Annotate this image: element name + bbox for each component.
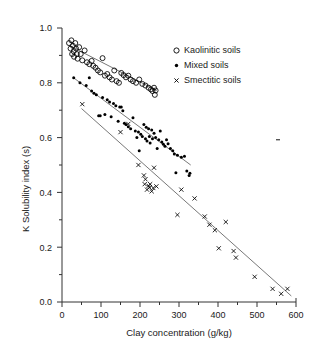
legend-label: Mixed soils	[184, 60, 229, 70]
cross-x-icon	[172, 76, 181, 85]
xtick-label: 500	[247, 310, 267, 320]
xtick-label: 0	[52, 310, 72, 320]
filled-dot-icon	[172, 61, 181, 70]
ytick-label: 1.0	[26, 23, 52, 33]
ytick-label: 0.0	[26, 297, 52, 307]
y-axis-label: K Solubility index (s)	[20, 146, 31, 232]
stray-mark	[276, 139, 280, 140]
ytick-label: 0.8	[26, 78, 52, 88]
ytick-label: 0.2	[26, 243, 52, 253]
xtick-label: 400	[208, 310, 228, 320]
ytick-label: 0.6	[26, 133, 52, 143]
xtick-label: 100	[91, 310, 111, 320]
xtick-label: 300	[169, 310, 189, 320]
legend-label: Smectitic soils	[184, 75, 241, 85]
open-circle-icon	[172, 46, 181, 55]
legend-label: Kaolinitic soils	[184, 45, 241, 55]
xtick-label: 600	[286, 310, 306, 320]
xtick-label: 200	[130, 310, 150, 320]
x-axis-label: Clay concentration (g/kg)	[62, 327, 296, 338]
figure-scatter-plot: 1.0 0.8 0.6 0.4 0.2 0.0 0 100 200 300 40…	[0, 0, 322, 352]
